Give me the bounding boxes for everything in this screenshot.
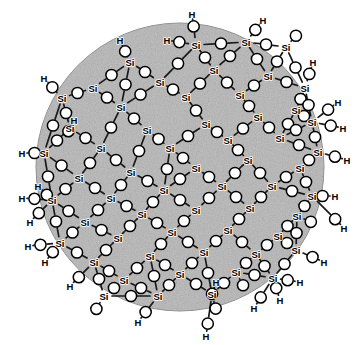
bridging-oxygen-atom: [229, 167, 240, 178]
hydroxyl-oxygen-atom: [29, 147, 40, 158]
hydroxyl-oxygen-atom: [317, 190, 328, 201]
bridging-oxygen-atom: [293, 139, 304, 150]
bridging-oxygen-atom: [155, 238, 166, 249]
bridging-oxygen-atom: [60, 183, 71, 194]
si-o-bond: [292, 172, 294, 173]
silicon-atom-label: Si: [127, 167, 136, 178]
hydroxyl-oxygen-atom: [250, 24, 261, 35]
hydroxyl-oxygen-atom: [140, 306, 151, 317]
silicon-atom-label: Si: [143, 125, 152, 136]
bridging-oxygen-atom: [233, 213, 244, 224]
bridging-oxygen-atom: [142, 175, 153, 186]
bridging-oxygen-atom: [254, 167, 265, 178]
silicon-atom-label: Si: [117, 102, 126, 113]
bridging-oxygen-atom: [174, 194, 185, 205]
si-o-bond: [165, 176, 166, 184]
bridging-oxygen-atom: [259, 260, 270, 271]
hydrogen-atom-label: H: [332, 191, 339, 202]
si-o-bond: [78, 227, 79, 228]
bridging-oxygen-atom: [218, 277, 229, 288]
hydroxyl-oxygen-atom: [304, 68, 315, 79]
hydroxyl-oxygen-atom: [325, 120, 336, 131]
bridging-oxygen-atom: [280, 171, 291, 182]
silicon-atom-label: Si: [40, 148, 49, 159]
bridging-oxygen-atom: [230, 191, 241, 202]
silicon-atom-label: Si: [293, 211, 302, 222]
silicon-atom-label: Si: [208, 289, 217, 300]
si-o-bond: [255, 202, 257, 204]
bridging-oxygen-atom: [148, 270, 159, 281]
hydrogen-atom-label: H: [35, 181, 42, 192]
bridging-oxygen-atom: [159, 259, 170, 270]
hydrogen-atom-label: H: [25, 241, 32, 252]
hydrogen-atom-label: H: [344, 155, 351, 166]
si-o-bond: [113, 101, 115, 102]
bridging-oxygen-atom: [167, 84, 178, 95]
bridging-oxygen-atom: [161, 163, 172, 174]
bridging-oxygen-atom: [224, 50, 235, 61]
hydrogen-atom-label: H: [297, 277, 304, 288]
hydrogen-atom-label: H: [335, 97, 342, 108]
bridging-oxygen-atom: [237, 123, 248, 134]
bridging-oxygen-atom: [56, 160, 67, 171]
bridging-oxygen-atom: [128, 113, 139, 124]
hydroxyl-oxygen-atom: [329, 151, 340, 162]
bridging-oxygen-atom: [240, 257, 251, 268]
bridging-oxygen-atom: [133, 145, 144, 156]
bridging-oxygen-atom: [96, 224, 107, 235]
bridging-oxygen-atom: [211, 126, 222, 137]
bridging-oxygen-atom: [190, 105, 201, 116]
bridging-oxygen-atom: [199, 52, 210, 63]
si-o-bond: [64, 104, 65, 106]
silicon-atom-label: Si: [292, 245, 301, 256]
silicon-atom-label: Si: [254, 112, 263, 123]
si-o-bond: [68, 119, 69, 121]
bridging-oxygen-atom: [261, 239, 272, 250]
bridging-oxygen-atom: [290, 124, 301, 135]
silicon-atom-label: Si: [242, 37, 251, 48]
si-o-bond: [34, 218, 35, 219]
bridging-oxygen-atom: [131, 262, 142, 273]
hydroxyl-oxygen-atom: [330, 214, 341, 225]
silicon-atom-label: Si: [308, 191, 317, 202]
silicon-atom-label: Si: [182, 92, 191, 103]
bridging-oxygen-atom: [174, 173, 185, 184]
si-o-bond: [261, 276, 265, 277]
silicon-atom-label: Si: [202, 119, 211, 130]
silicon-atom-label: Si: [97, 143, 106, 154]
bridging-oxygen-atom: [309, 131, 320, 142]
silicon-atom-label: Si: [314, 147, 323, 158]
terminal-oxygen-atom: [210, 303, 221, 314]
bridging-oxygen-atom: [194, 78, 205, 89]
silicon-atom-label: Si: [200, 247, 209, 258]
bridging-oxygen-atom: [215, 38, 226, 49]
hydrogen-atom-label: H: [341, 223, 348, 234]
hydroxyl-oxygen-atom: [188, 21, 199, 32]
si-o-bond: [218, 288, 219, 289]
si-o-bond: [189, 215, 190, 216]
bridging-oxygen-atom: [286, 185, 297, 196]
si-o-bond: [194, 33, 195, 37]
silicon-atom-label: Si: [138, 209, 147, 220]
silicon-atom-label: Si: [166, 143, 175, 154]
silicon-atom-label: Si: [224, 135, 233, 146]
silicon-atom-label: Si: [168, 227, 177, 238]
bridging-oxygen-atom: [50, 216, 61, 227]
bridging-oxygen-atom: [232, 144, 243, 155]
si-o-bond: [168, 154, 169, 162]
si-o-bond: [303, 174, 304, 176]
silicon-atom-label: Si: [126, 57, 135, 68]
hydrogen-atom-label: H: [71, 115, 78, 126]
silicon-atom-label: Si: [48, 195, 57, 206]
bridging-oxygen-atom: [42, 171, 53, 182]
si-o-bond: [188, 162, 189, 163]
hydrogen-atom-label: H: [310, 57, 317, 68]
si-o-bond: [210, 246, 211, 247]
bridging-oxygen-atom: [203, 192, 214, 203]
hydrogen-atom-label: H: [213, 277, 220, 288]
silicon-atom-label: Si: [244, 155, 253, 166]
si-o-bond: [204, 44, 214, 45]
bridging-oxygen-atom: [100, 244, 111, 255]
si-o-bond: [260, 80, 262, 81]
silicon-atom-label: Si: [276, 133, 285, 144]
